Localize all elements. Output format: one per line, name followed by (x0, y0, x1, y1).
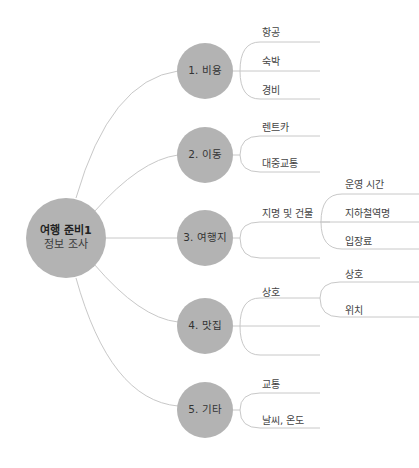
leaf-restaurant-name[interactable]: 상호 (262, 284, 280, 299)
category-label: 1. 비용 (188, 64, 221, 78)
leaf-rental-car[interactable]: 렌트카 (262, 119, 289, 134)
category-label: 4. 맛집 (188, 319, 221, 333)
category-node-cost[interactable]: 1. 비용 (177, 43, 233, 99)
category-node-destination[interactable]: 3. 여행지 (177, 210, 233, 266)
leaf-subway-station[interactable]: 지하철역명 (345, 205, 390, 220)
leaf-weather[interactable]: 날씨, 온도 (262, 412, 304, 427)
leaf-flight[interactable]: 항공 (262, 24, 280, 39)
leaf-hours[interactable]: 운영 시간 (345, 176, 384, 191)
category-label: 2. 이동 (188, 148, 221, 162)
leaf-place-names[interactable]: 지명 및 건물 (262, 205, 313, 220)
root-subtitle: 정보 조사 (44, 238, 88, 252)
leaf-admission[interactable]: 입장료 (345, 233, 372, 248)
leaf-name[interactable]: 상호 (345, 266, 363, 281)
leaf-traffic[interactable]: 교통 (262, 376, 280, 391)
category-node-etc[interactable]: 5. 기타 (177, 382, 233, 438)
leaf-location[interactable]: 위치 (345, 302, 363, 317)
leaf-public-transit[interactable]: 대중교통 (262, 155, 298, 170)
category-node-restaurant[interactable]: 4. 맛집 (177, 298, 233, 354)
category-label: 3. 여행지 (183, 231, 226, 245)
root-title: 여행 준비1 (40, 224, 91, 238)
leaf-expenses[interactable]: 경비 (262, 82, 280, 97)
category-label: 5. 기타 (188, 403, 221, 417)
category-node-transport[interactable]: 2. 이동 (177, 127, 233, 183)
root-node[interactable]: 여행 준비1 정보 조사 (26, 198, 106, 278)
leaf-lodging[interactable]: 숙박 (262, 53, 280, 68)
